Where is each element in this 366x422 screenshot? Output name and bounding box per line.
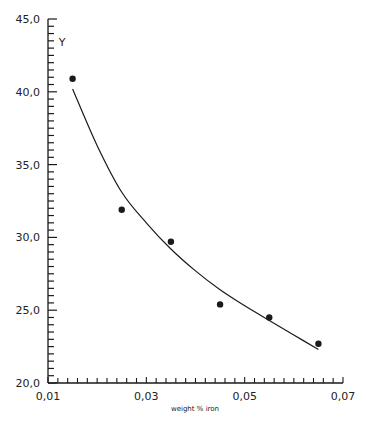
data-points (69, 75, 321, 346)
y-axis (48, 19, 57, 383)
fit-curve-path (73, 89, 319, 350)
x-tick-label: 0,05 (232, 390, 257, 403)
y-tick-labels: 20,025,030,035,040,045,0 (16, 13, 41, 390)
data-point (119, 207, 125, 213)
y-tick-label: 35,0 (16, 159, 41, 172)
data-point (168, 239, 174, 245)
data-point (69, 75, 75, 81)
x-tick-labels: 0,010,030,050,07 (36, 390, 356, 403)
chart: 20,025,030,035,040,045,0 0,010,030,050,0… (0, 0, 366, 422)
y-tick-label: 30,0 (16, 231, 41, 244)
y-axis-label: Y (58, 36, 66, 49)
x-axis-label: weight % iron (171, 405, 219, 413)
x-tick-label: 0,03 (134, 390, 159, 403)
x-tick-label: 0,01 (36, 390, 61, 403)
fit-curve (73, 89, 319, 350)
x-axis (48, 377, 343, 383)
y-tick-label: 40,0 (16, 86, 41, 99)
data-point (266, 314, 272, 320)
data-point (217, 301, 223, 307)
x-tick-label: 0,07 (331, 390, 356, 403)
data-point (315, 340, 321, 346)
y-tick-label: 20,0 (16, 377, 41, 390)
y-tick-label: 45,0 (16, 13, 41, 26)
y-tick-label: 25,0 (16, 304, 41, 317)
